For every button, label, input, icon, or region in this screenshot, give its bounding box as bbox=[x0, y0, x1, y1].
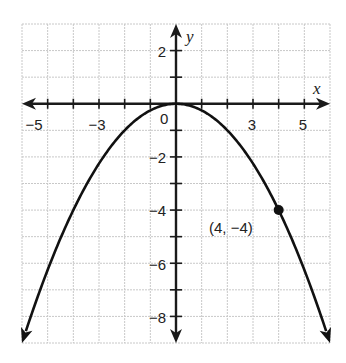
y-axis-label: y bbox=[184, 27, 194, 46]
origin-label: 0 bbox=[160, 110, 168, 127]
graph-canvas: x y 0 (4, −4) −5 −3 3 5 2 −2 −4 −6 −8 bbox=[0, 0, 346, 363]
y-tick-label-neg2: −2 bbox=[149, 149, 166, 166]
y-tick-label-neg8: −8 bbox=[149, 309, 166, 326]
x-axis-label: x bbox=[312, 79, 321, 98]
y-tick-label-neg4: −4 bbox=[149, 202, 166, 219]
x-tick-label-neg5: −5 bbox=[25, 116, 42, 133]
point-marker bbox=[274, 205, 284, 215]
y-tick-label-neg6: −6 bbox=[149, 256, 166, 273]
x-tick-label-5: 5 bbox=[299, 116, 307, 133]
x-tick-label-3: 3 bbox=[248, 116, 256, 133]
point-label: (4, −4) bbox=[209, 219, 253, 236]
y-tick-label-2: 2 bbox=[158, 43, 166, 60]
x-tick-label-neg3: −3 bbox=[88, 116, 105, 133]
